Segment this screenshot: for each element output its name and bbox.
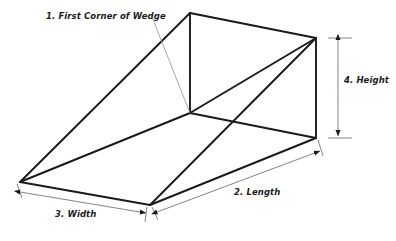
length-dimension [152,140,323,220]
edge-front-bottom-to-back-bottom-right [150,138,316,205]
width-extension-left [17,184,22,198]
label-first-corner-of-wedge: 1. First Corner of Wedge [46,12,166,21]
height-dimension [328,38,352,138]
edge-left-to-first-corner [20,113,190,182]
edge-slope-face-diagonal [150,38,316,205]
edge-first-corner-to-back-bottom-right [190,113,316,138]
length-extension-right [318,140,323,156]
wedge-diagram-canvas [0,0,396,241]
edge-left-to-apex [20,13,190,182]
wedge-wireframe [20,13,316,205]
label-length: 2. Length [234,188,280,197]
length-dimension-line [157,151,320,212]
edge-apex-to-back-top-right [190,13,316,38]
label-width: 3. Width [55,210,96,219]
label-height: 4. Height [344,76,389,85]
width-extension-right [145,207,147,222]
length-extension-left [152,207,158,220]
wedge-diagram: 1. First Corner of Wedge 2. Length 3. Wi… [0,0,396,241]
edge-left-to-front-bottom [20,182,150,205]
